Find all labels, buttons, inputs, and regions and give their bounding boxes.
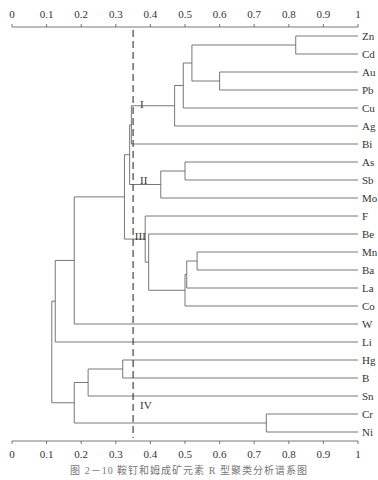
top-axis-tick-label: 0.2 xyxy=(74,8,88,20)
bottom-axis-tick-label: 0.3 xyxy=(109,448,123,460)
top-axis-tick-label: 0.6 xyxy=(213,8,227,20)
top-axis-tick-label: 0.5 xyxy=(178,8,192,20)
leaf-label-ag: Ag xyxy=(362,120,376,132)
figure-caption: 图 2－10 鞍钉和姆成矿元素 R 型聚类分析谱系图 xyxy=(0,462,378,477)
leaf-label-sb: Sb xyxy=(362,174,374,186)
leaf-label-be: Be xyxy=(362,228,374,240)
top-axis-tick-label: 1 xyxy=(355,8,361,20)
leaf-label-ni: Ni xyxy=(362,426,373,438)
cluster-label-i: I xyxy=(140,98,144,110)
bottom-axis-tick-label: 0 xyxy=(9,448,15,460)
leaf-label-f: F xyxy=(362,210,368,222)
leaf-label-co: Co xyxy=(362,300,375,312)
leaf-label-li: Li xyxy=(362,336,372,348)
bottom-axis-tick-label: 0.1 xyxy=(40,448,54,460)
bottom-axis-tick-label: 0.9 xyxy=(317,448,331,460)
leaf-label-zn: Zn xyxy=(362,30,375,42)
leaf-label-pb: Pb xyxy=(362,84,374,96)
bottom-axis-tick-label: 0.8 xyxy=(282,448,296,460)
leaf-label-cu: Cu xyxy=(362,102,375,114)
leaf-label-bi: Bi xyxy=(362,138,372,150)
leaf-label-hg: Hg xyxy=(362,354,376,366)
leaf-label-au: Au xyxy=(362,66,376,78)
leaf-label-cr: Cr xyxy=(362,408,373,420)
top-axis-tick-label: 0.9 xyxy=(317,8,331,20)
leaf-label-mn: Mn xyxy=(362,246,378,258)
bottom-axis-tick-label: 0.2 xyxy=(74,448,88,460)
bottom-axis-tick-label: 0.6 xyxy=(213,448,227,460)
leaf-label-la: La xyxy=(362,282,374,294)
leaf-label-as: As xyxy=(362,156,374,168)
cluster-label-iv: IV xyxy=(140,399,152,411)
dendrogram-canvas: 00.10.20.30.40.50.60.70.80.9100.10.20.30… xyxy=(0,0,378,480)
leaf-label-mo: Mo xyxy=(362,192,378,204)
bottom-axis-tick-label: 1 xyxy=(355,448,361,460)
bottom-axis-tick-label: 0.4 xyxy=(144,448,158,460)
leaf-label-cd: Cd xyxy=(362,48,375,60)
cluster-label-ii: II xyxy=(140,174,148,186)
bottom-axis-tick-label: 0.5 xyxy=(178,448,192,460)
top-axis-tick-label: 0.4 xyxy=(144,8,158,20)
top-axis-tick-label: 0.7 xyxy=(247,8,261,20)
top-axis-tick-label: 0 xyxy=(9,8,15,20)
leaf-label-w: W xyxy=(362,318,373,330)
leaf-label-sn: Sn xyxy=(362,390,374,402)
leaf-label-ba: Ba xyxy=(362,264,374,276)
top-axis-tick-label: 0.3 xyxy=(109,8,123,20)
top-axis-tick-label: 0.1 xyxy=(40,8,54,20)
cluster-label-iii: III xyxy=(135,230,146,242)
leaf-label-b: B xyxy=(362,372,369,384)
top-axis-tick-label: 0.8 xyxy=(282,8,296,20)
bottom-axis-tick-label: 0.7 xyxy=(247,448,261,460)
